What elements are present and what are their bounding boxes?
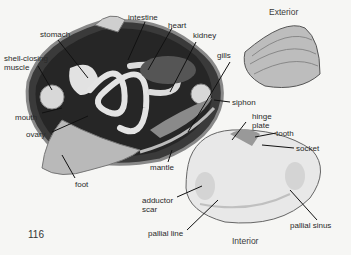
label-adductor-scar-2: scar	[142, 205, 157, 214]
label-exterior: Exterior	[269, 8, 298, 17]
page-number: 116	[28, 229, 44, 240]
label-hinge-plate-1: hinge	[252, 112, 272, 121]
label-interior: Interior	[232, 237, 258, 246]
label-stomach: stomach	[40, 30, 70, 39]
label-mantle: mantle	[150, 163, 174, 172]
label-kidney: kidney	[193, 31, 216, 40]
exterior-shell	[244, 26, 320, 88]
label-shell-closing-muscle-1: shell-closing	[4, 54, 48, 63]
label-foot: foot	[75, 180, 88, 189]
label-ovary: ovary	[26, 130, 46, 139]
label-adductor-scar-1: adductor	[142, 196, 173, 205]
label-pallial-sinus: pallial sinus	[290, 221, 331, 230]
label-pallial-line: pallial line	[148, 229, 183, 238]
label-tooth: tooth	[276, 129, 294, 138]
label-intestine: intestine	[128, 13, 158, 22]
label-shell-closing-muscle-2: muscle	[4, 63, 29, 72]
label-hinge-plate-2: plate	[252, 121, 269, 130]
label-heart: heart	[168, 21, 186, 30]
label-mouth: mouth	[15, 113, 37, 122]
label-socket: socket	[296, 144, 319, 153]
label-siphon: siphon	[232, 98, 256, 107]
label-gills: gills	[217, 51, 231, 60]
